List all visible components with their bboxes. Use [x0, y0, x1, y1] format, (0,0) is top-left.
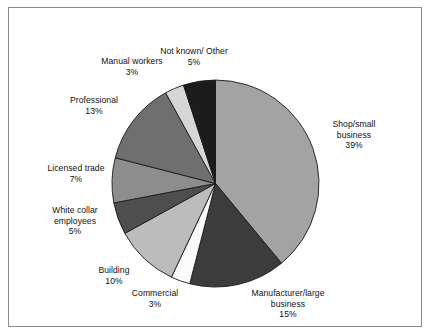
label-licensed-trade: Licensed trade7% — [33, 163, 119, 184]
label-line: 39% — [312, 140, 396, 151]
label-line: 3% — [113, 299, 197, 310]
label-line: Manufacturer/large — [222, 288, 354, 299]
label-line: 13% — [53, 106, 135, 117]
label-line: 3% — [88, 67, 176, 78]
label-line: Building — [81, 265, 147, 276]
label-white-collar-employees: White collaremployees5% — [35, 205, 115, 237]
label-professional: Professional13% — [53, 95, 135, 116]
label-line: 10% — [81, 276, 147, 287]
label-building: Building10% — [81, 265, 147, 286]
label-line: Professional — [53, 95, 135, 106]
label-line: 5% — [35, 226, 115, 237]
label-line: Shop/small — [312, 119, 396, 130]
label-line: 5% — [140, 57, 248, 68]
pie-chart: Shop/smallbusiness39% Manufacturer/large… — [0, 0, 432, 336]
label-line: Not known/ Other — [140, 46, 248, 57]
label-line: business — [312, 130, 396, 141]
label-line: 15% — [222, 309, 354, 320]
pie-slice-group — [112, 80, 319, 287]
label-not-known-other: Not known/ Other5% — [140, 46, 248, 67]
label-manufacturer-large-business: Manufacturer/largebusiness15% — [222, 288, 354, 320]
label-line: business — [222, 299, 354, 310]
label-line: 7% — [33, 174, 119, 185]
label-line: Licensed trade — [33, 163, 119, 174]
label-commercial: Commercial3% — [113, 288, 197, 309]
label-line: White collar — [35, 205, 115, 216]
label-shop-small-business: Shop/smallbusiness39% — [312, 119, 396, 151]
label-line: Commercial — [113, 288, 197, 299]
label-line: employees — [35, 216, 115, 227]
